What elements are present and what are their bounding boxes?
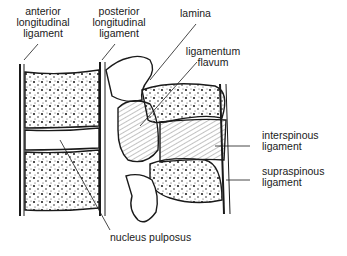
label-lamina: lamina [180,8,211,19]
label-interspinous-ligament: interspinous ligament [262,130,319,152]
label-line: ligament [262,177,324,188]
label-anterior-longitudinal-ligament: anterior longitudinal ligament [10,6,76,39]
label-posterior-longitudinal-ligament: posterior longitudinal ligament [86,6,152,39]
label-supraspinous-ligament: supraspinous ligament [262,166,324,188]
label-line: lamina [180,8,211,19]
label-line: ligament [262,141,319,152]
label-nucleus-pulposus: nucleus pulposus [110,232,191,243]
label-line: ligament [10,28,76,39]
label-ligamentum-flavum: ligamentum flavum [180,46,246,68]
label-line: ligament [86,28,152,39]
label-line: nucleus pulposus [110,232,191,243]
label-line: flavum [180,57,246,68]
